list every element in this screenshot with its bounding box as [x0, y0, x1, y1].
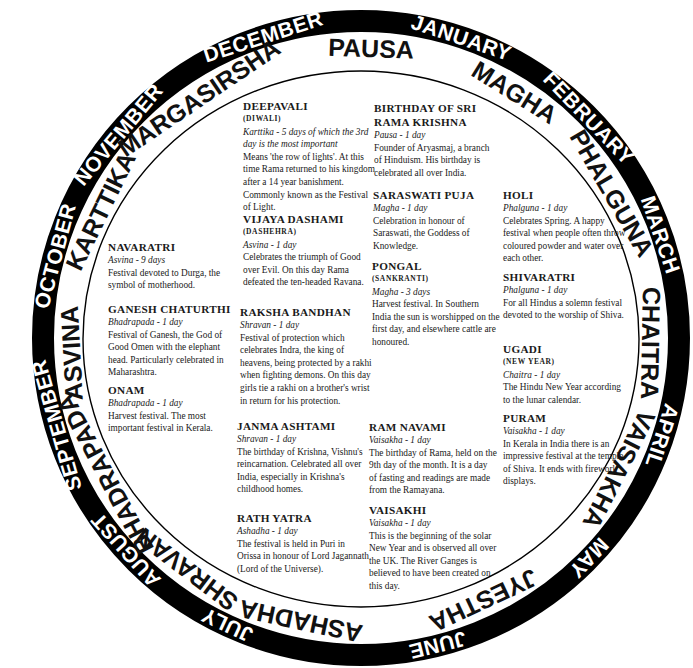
festival-description: Harvest festival. The most important fes… [108, 410, 232, 435]
festival-name: DEEPAVALI [243, 99, 375, 113]
festival-name: SARASWATI PUJA [373, 188, 498, 202]
festival-onam: ONAM Bhadrapada - 1 day Harvest festival… [108, 383, 232, 435]
festival-puram: PURAM Vaisakha - 1 day In Kerala in Indi… [503, 411, 628, 488]
festival-duration: Vaisakha - 1 day [369, 517, 497, 530]
festival-duration: Vaisakha - 1 day [503, 425, 628, 438]
festival-ganesh-chaturthi: GANESH CHATURTHI Bhadrapada - 1 day Fest… [108, 302, 232, 379]
festival-description: Celebration in honour of Saraswati, the … [373, 215, 498, 253]
festival-alt-name: (DASHEHRA) [243, 226, 375, 239]
festival-holi: HOLI Phalguna - 1 day Celebrates Spring.… [503, 188, 628, 265]
festival-duration: Karttika - 5 days of which the 3rd day i… [243, 126, 375, 151]
festival-rath-yatra: RATH YATRA Ashadha - 1 day The festival … [237, 511, 369, 575]
festival-navaratri: NAVARATRI Asvina - 9 days Festival devot… [108, 240, 230, 292]
festival-duration: Vaisakha - 1 day [369, 434, 497, 447]
festival-birthday-sri-rama-krishna: BIRTHDAY OF SRI RAMA KRISHNA Pausa - 1 d… [374, 101, 499, 179]
festival-duration: Ashadha - 1 day [237, 525, 369, 538]
festival-duration: Shravan - 1 day [240, 319, 372, 332]
hindu-month-label-pausa: PAUSA [328, 33, 415, 64]
festival-description: This is the beginning of the solar New Y… [369, 530, 497, 593]
festival-janma-ashtami: JANMA ASHTAMI Shravan - 1 day The birthd… [237, 419, 369, 496]
festival-description: For all Hindus a solemn festival devoted… [503, 297, 628, 322]
festival-name: HOLI [503, 188, 628, 202]
festival-alt-name: (SANKRANTI) [372, 273, 500, 286]
festival-saraswati-puja: SARASWATI PUJA Magha - 1 day Celebration… [373, 188, 498, 252]
festival-name: RAM NAVAMI [369, 420, 497, 434]
festival-duration: Magha - 3 days [372, 286, 500, 299]
festival-vijaya-dashami: VIJAYA DASHAMI (DASHEHRA) Asvina - 1 day… [243, 212, 375, 289]
festival-deepavali: DEEPAVALI (DIWALI) Karttika - 5 days of … [243, 99, 375, 214]
festival-description: The festival is held in Puri in Orissa i… [237, 538, 369, 576]
festival-name: JANMA ASHTAMI [237, 419, 369, 433]
festival-description: Founder of Aryasmaj, a branch of Hinduis… [374, 142, 499, 180]
festival-name: UGADI [503, 342, 628, 356]
festival-duration: Chaitra - 1 day [503, 369, 628, 382]
festival-description: The Hindu New Year according to the luna… [503, 381, 628, 406]
festival-name: GANESH CHATURTHI [108, 302, 232, 316]
festival-description: Harvest festival. In Southern India the … [372, 298, 500, 348]
festival-duration: Pausa - 1 day [374, 129, 499, 142]
festival-alt-name: (DIWALI) [243, 113, 375, 126]
festival-name: VAISAKHI [369, 503, 497, 517]
festival-description: Festival of protection which celebrates … [240, 332, 372, 408]
festival-vaisakhi: VAISAKHI Vaisakha - 1 day This is the be… [369, 503, 497, 593]
festival-name: PONGAL [372, 259, 500, 273]
festival-ram-navami: RAM NAVAMI Vaisakha - 1 day The birthday… [369, 420, 497, 497]
festival-description: Festival devoted to Durga, the symbol of… [108, 267, 230, 292]
festival-shivaratri: SHIVARATRI Phalguna - 1 day For all Hind… [503, 270, 628, 322]
festival-description: Means 'the row of lights'. At this time … [243, 151, 375, 214]
festival-name: RATH YATRA [237, 511, 369, 525]
festival-name: ONAM [108, 383, 232, 397]
festival-duration: Bhadrapada - 1 day [108, 397, 232, 410]
festival-pongal: PONGAL (SANKRANTI) Magha - 3 days Harves… [372, 259, 500, 349]
festival-duration: Asvina - 1 day [243, 239, 375, 252]
festival-description: Festival of Ganesh, the God of Good Omen… [108, 329, 232, 379]
hindu-month-label-chaitra: CHAITRA [636, 287, 666, 400]
festival-name: NAVARATRI [108, 240, 230, 254]
festival-raksha-bandhan: RAKSHA BANDHAN Shravan - 1 day Festival … [240, 305, 372, 407]
festival-description: The birthday of Rama, held on the 9th da… [369, 447, 497, 497]
hindu-month-label-asvina: ASVINA [55, 305, 88, 401]
festival-description: Celebrates the triumph of Good over Evil… [243, 251, 375, 289]
festival-description: The birthday of Krishna, Vishnu's reinca… [237, 446, 369, 496]
festival-name: RAKSHA BANDHAN [240, 305, 372, 319]
festival-alt-name: (NEW YEAR) [503, 356, 628, 369]
festival-duration: Magha - 1 day [373, 202, 498, 215]
festival-duration: Phalguna - 1 day [503, 284, 628, 297]
festival-ugadi: UGADI (NEW YEAR) Chaitra - 1 day The Hin… [503, 342, 628, 406]
festival-duration: Asvina - 9 days [108, 254, 230, 267]
festival-name: PURAM [503, 411, 628, 425]
festival-name: BIRTHDAY OF SRI RAMA KRISHNA [374, 101, 499, 129]
festival-duration: Phalguna - 1 day [503, 202, 628, 215]
festival-name: VIJAYA DASHAMI [243, 212, 375, 226]
festival-description: In Kerala in India there is an impressiv… [503, 438, 628, 488]
festival-duration: Shravan - 1 day [237, 433, 369, 446]
festival-description: Celebrates Spring. A happy festival when… [503, 215, 628, 265]
festival-name: SHIVARATRI [503, 270, 628, 284]
festival-duration: Bhadrapada - 1 day [108, 316, 232, 329]
